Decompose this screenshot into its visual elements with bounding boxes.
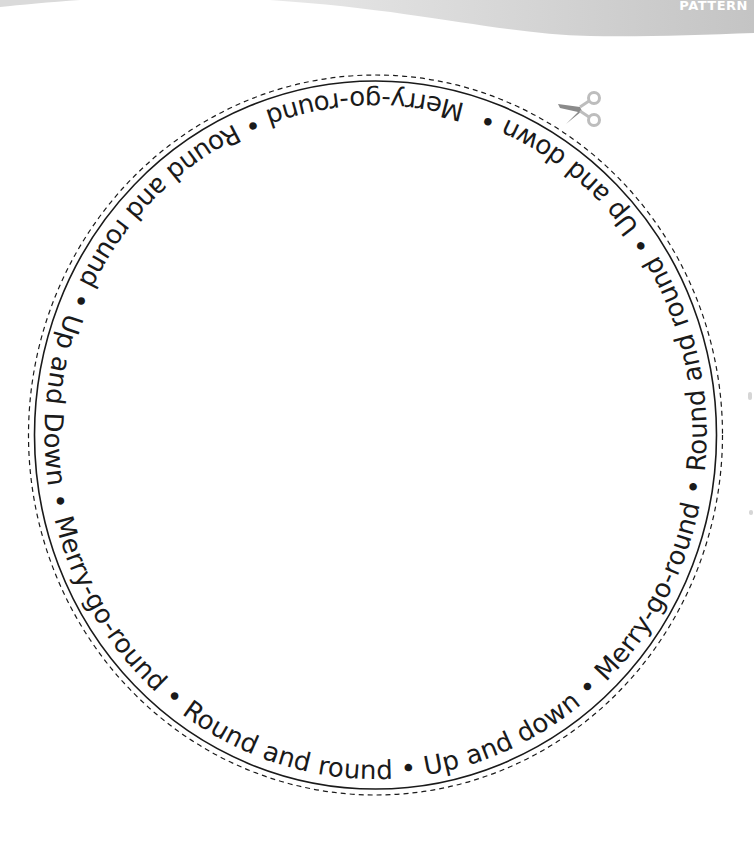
scissors-icon <box>556 90 606 130</box>
edge-mark <box>749 510 753 515</box>
cut-line-dashed <box>29 75 723 795</box>
ring-text: Merry-go-round • Round and round • Up an… <box>38 85 712 785</box>
circle-pattern: Merry-go-round • Round and round • Up an… <box>0 0 754 867</box>
ring-text-path: Merry-go-round • Round and round • Up an… <box>38 85 712 785</box>
fold-line-solid <box>35 81 717 789</box>
edge-mark <box>748 392 752 400</box>
